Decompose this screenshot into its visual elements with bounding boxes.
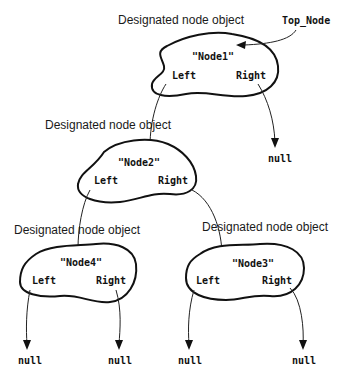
binary-tree-diagram: Designated node object Top_Node "Node1" … xyxy=(0,0,337,377)
node2-left-label: Left xyxy=(94,175,118,186)
node1-group: Designated node object Top_Node "Node1" … xyxy=(118,13,330,96)
node4-group: Designated node object "Node4" Left Righ… xyxy=(14,223,141,302)
node4-left-label: Left xyxy=(32,275,56,286)
node3-right-edge xyxy=(290,288,303,344)
node2-right-label: Right xyxy=(158,175,188,186)
null-node4-right: null xyxy=(108,355,132,366)
node1-value: "Node1" xyxy=(192,51,234,62)
node3-value: "Node3" xyxy=(232,258,274,269)
null-node4-left: null xyxy=(18,355,42,366)
node3-right-arrowhead-icon xyxy=(299,340,307,350)
null-node3-right: null xyxy=(292,355,316,366)
node3-left-label: Left xyxy=(196,275,220,286)
node1-right-arrowhead-icon xyxy=(271,138,279,148)
top-node-label: Top_Node xyxy=(282,15,330,27)
null-node1-right: null xyxy=(268,153,292,164)
node2-value: "Node2" xyxy=(118,157,160,168)
node2-group: Designated node object "Node2" Left Righ… xyxy=(45,118,196,202)
node4-left-edge xyxy=(26,290,30,344)
node4-caption: Designated node object xyxy=(14,223,141,237)
null-node3-left: null xyxy=(178,355,202,366)
node4-blob xyxy=(20,244,136,303)
node3-left-edge xyxy=(189,290,194,344)
node3-group: Designated node object "Node3" Left Righ… xyxy=(186,220,329,300)
node1-left-label: Left xyxy=(172,70,196,81)
node3-left-arrowhead-icon xyxy=(185,340,193,350)
node3-right-label: Right xyxy=(262,275,292,286)
node1-caption: Designated node object xyxy=(118,13,245,27)
node4-left-arrowhead-icon xyxy=(23,340,31,350)
node4-value: "Node4" xyxy=(60,257,102,268)
node3-blob xyxy=(186,244,304,300)
node4-right-arrowhead-icon xyxy=(115,340,123,350)
node4-right-label: Right xyxy=(96,275,126,286)
node2-blob xyxy=(78,140,196,203)
node3-caption: Designated node object xyxy=(202,220,329,234)
node2-caption: Designated node object xyxy=(45,118,172,132)
node1-right-label: Right xyxy=(236,70,266,81)
